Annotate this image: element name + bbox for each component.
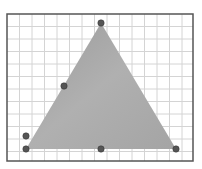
point-left-lower[interactable] [23,133,29,139]
triangle[interactable] [26,23,176,149]
point-bottom-mid[interactable] [98,146,104,152]
geometry-canvas [0,0,202,169]
point-left-side-mid[interactable] [61,83,67,89]
point-bottom-right[interactable] [173,146,179,152]
point-bottom-left[interactable] [23,146,29,152]
point-apex[interactable] [98,20,104,26]
